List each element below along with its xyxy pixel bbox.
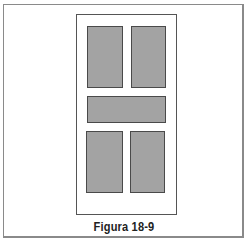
bottom-left-panel: [86, 131, 123, 193]
figure-caption: Figura 18-9: [19, 219, 230, 234]
middle-horizontal-panel: [87, 96, 166, 123]
bottom-right-panel: [130, 131, 165, 193]
top-left-panel: [87, 26, 123, 88]
top-right-panel: [131, 26, 166, 88]
